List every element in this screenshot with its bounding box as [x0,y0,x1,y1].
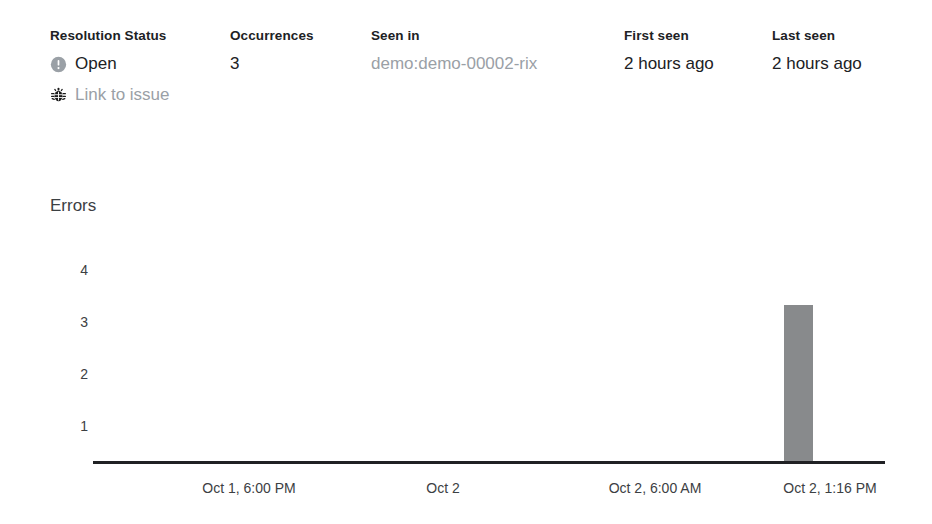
occurrences-value: 3 [230,53,314,75]
resolution-status-label: Resolution Status [50,28,170,44]
y-tick-label-2: 2 [62,366,88,382]
chart-plot-area: 4 3 2 1 Oct 1, 6:00 PM Oct 2 Oct 2, 6:00… [0,120,932,524]
last-seen-value: 2 hours ago [772,53,862,75]
x-axis-line [93,461,885,464]
occurrences-label: Occurrences [230,28,314,44]
bug-icon [50,87,67,104]
summary-column-resolution-status: Resolution Status Open [50,28,170,106]
y-tick-label-1: 1 [62,418,88,434]
first-seen-label: First seen [624,28,714,44]
summary-column-first-seen: First seen 2 hours ago [624,28,714,75]
seen-in-label: Seen in [371,28,537,44]
resolution-status-value-row: Open [50,53,170,75]
x-tick-label-0: Oct 1, 6:00 PM [202,480,295,496]
x-tick-label-1: Oct 2 [426,480,459,496]
last-seen-label: Last seen [772,28,862,44]
seen-in-value[interactable]: demo:demo-00002-rix [371,53,537,75]
link-to-issue-button[interactable]: Link to issue [50,84,170,106]
circle-exclamation-icon [50,56,67,73]
first-seen-value: 2 hours ago [624,53,714,75]
summary-column-last-seen: Last seen 2 hours ago [772,28,862,75]
x-tick-label-2: Oct 2, 6:00 AM [609,480,702,496]
chart-bar[interactable] [784,305,813,461]
resolution-status-value: Open [75,53,117,75]
y-tick-label-4: 4 [62,262,88,278]
errors-chart: Errors 4 3 2 1 Oct 1, 6:00 PM Oct 2 Oct … [0,120,932,524]
link-to-issue-label: Link to issue [75,84,170,106]
issue-summary-bar: Resolution Status Open [0,0,932,120]
summary-column-occurrences: Occurrences 3 [230,28,314,75]
x-tick-label-3: Oct 2, 1:16 PM [783,480,876,496]
summary-column-seen-in: Seen in demo:demo-00002-rix [371,28,537,75]
y-tick-label-3: 3 [62,314,88,330]
